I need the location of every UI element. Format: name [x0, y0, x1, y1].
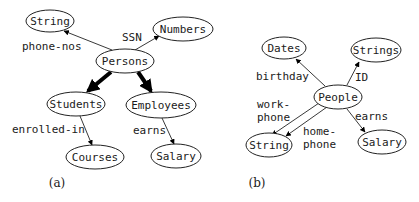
edge-label-phone-nos: phone-nos	[22, 40, 82, 53]
node-people: People	[314, 85, 362, 109]
edge-label-birthday: birthday	[256, 70, 309, 83]
node-salary-b: Salary	[358, 130, 406, 154]
diagram-canvas: String Numbers Persons Students Employee…	[0, 0, 419, 202]
node-dates: Dates	[262, 37, 306, 59]
edge-label-enrolled-in: enrolled-in	[12, 123, 85, 136]
node-persons: Persons	[96, 49, 154, 73]
node-label: People	[318, 91, 358, 104]
node-label: Persons	[102, 55, 148, 68]
edge-persons-employees	[138, 72, 151, 91]
node-label: Salary	[362, 136, 402, 149]
panel-b: Dates Strings People String Salary birth…	[246, 37, 406, 190]
node-label: Strings	[353, 44, 399, 57]
node-strings: Strings	[351, 38, 401, 62]
panel-a: String Numbers Persons Students Employee…	[12, 10, 213, 190]
node-label: Employees	[131, 99, 191, 112]
node-courses: Courses	[66, 145, 124, 169]
node-label: String	[30, 15, 70, 28]
node-label: Students	[50, 98, 103, 111]
edge-label-work-phone-1: work-	[257, 98, 290, 111]
node-label: String	[249, 139, 289, 152]
node-numbers: Numbers	[153, 17, 213, 41]
edge-label-earns-b: earns	[355, 110, 388, 123]
node-label: Dates	[267, 42, 300, 55]
edge-label-id: ID	[355, 71, 368, 84]
edge-label-home-phone-1: home-	[303, 125, 336, 138]
node-label: Numbers	[160, 23, 206, 36]
node-salary-a: Salary	[151, 144, 201, 168]
edge-label-work-phone-2: phone	[257, 111, 290, 124]
node-students: Students	[47, 92, 105, 116]
edge-label-earns-a: earns	[133, 124, 166, 137]
node-string-a: String	[26, 10, 74, 32]
edge-persons-students	[88, 72, 111, 91]
node-employees: Employees	[126, 92, 196, 118]
node-label: Salary	[156, 150, 196, 163]
node-string-b: String	[246, 133, 292, 157]
edge-label-home-phone-2: phone	[303, 138, 336, 151]
caption-b: (b)	[248, 176, 265, 190]
edge-label-ssn: SSN	[122, 31, 142, 44]
caption-a: (a)	[49, 176, 66, 190]
node-label: Courses	[72, 151, 118, 164]
